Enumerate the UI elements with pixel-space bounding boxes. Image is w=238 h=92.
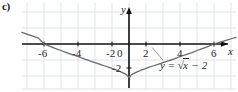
x-tick-label-neg2: -2 <box>106 48 115 59</box>
figure-container: c) <box>0 0 238 92</box>
equation-lhs: y <box>160 59 165 71</box>
y-tick-label-neg2: -2 <box>112 63 121 74</box>
equation-equals: = <box>168 59 175 71</box>
x-axis-label: x <box>228 46 233 57</box>
equation-rhs: − 2 <box>192 59 208 71</box>
radicand: x <box>183 58 189 71</box>
y-axis-label: y <box>121 4 126 15</box>
graph-plot <box>0 0 238 92</box>
x-tick-label-neg6: -6 <box>38 48 47 59</box>
x-tick-label-2: 2 <box>143 48 149 59</box>
x-tick-label-4: 4 <box>177 48 183 59</box>
curve-equation-label: y = √x − 2 <box>160 60 207 71</box>
x-tick-label-neg4: -4 <box>72 48 81 59</box>
x-tick-label-6: 6 <box>211 48 217 59</box>
x-tick-label-0: 0 <box>117 48 123 59</box>
